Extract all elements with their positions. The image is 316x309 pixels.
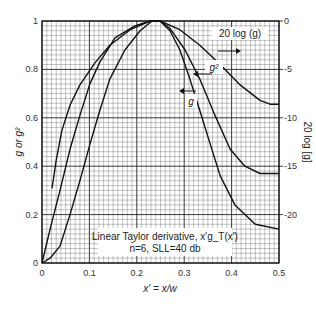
chart: 00.20.40.60.81 0-5-10-15-20 00.10.20.30.…: [0, 0, 316, 309]
y-tick-label: 0.8: [25, 64, 38, 74]
grid: [42, 21, 279, 263]
y-axis-label-left: g or g²: [13, 127, 24, 157]
annotation-box: Linear Taylor derivative, x'g_T(x') n̄=6…: [92, 228, 238, 256]
curve-label-20log: 20 log (g): [219, 28, 261, 39]
x-axis-ticks: 00.10.20.30.40.5: [39, 268, 285, 278]
series-line: [52, 21, 279, 189]
arrow-head-right-icon: [236, 48, 241, 54]
y-axis-label-right: 20 log [g]: [302, 121, 313, 162]
y-tick-label: 0: [33, 258, 38, 268]
x-axis-label: x' = x/w: [142, 283, 177, 294]
annotation-line-1: Linear Taylor derivative, x'g_T(x'): [92, 231, 238, 242]
x-tick-label: 0.1: [83, 268, 96, 278]
y-right-tick-label: -15: [284, 161, 297, 171]
x-tick-label: 0.5: [273, 268, 286, 278]
y-tick-label: 0.2: [25, 210, 38, 220]
y-axis-left-ticks: 00.20.40.60.81: [25, 16, 38, 268]
x-tick-label: 0.4: [225, 268, 238, 278]
y-tick-label: 1: [33, 16, 38, 26]
y-axis-right-ticks: 0-5-10-15-20: [279, 16, 297, 220]
y-right-tick-label: -5: [284, 64, 292, 74]
y-right-tick-label: -10: [284, 113, 297, 123]
x-tick-label: 0.3: [178, 268, 191, 278]
annotation-line-2: n̄=6, SLL=40 db: [129, 242, 201, 254]
curve-label-g2: g²: [210, 62, 220, 73]
y-tick-label: 0.6: [25, 113, 38, 123]
curve-label-g: g: [188, 96, 194, 107]
label-g2: g²: [193, 60, 223, 77]
x-tick-label: 0: [39, 268, 44, 278]
x-tick-label: 0.2: [131, 268, 144, 278]
y-right-tick-label: -20: [284, 210, 297, 220]
y-tick-label: 0.4: [25, 161, 38, 171]
y-right-tick-label: 0: [284, 16, 289, 26]
label-g: g: [179, 88, 197, 108]
